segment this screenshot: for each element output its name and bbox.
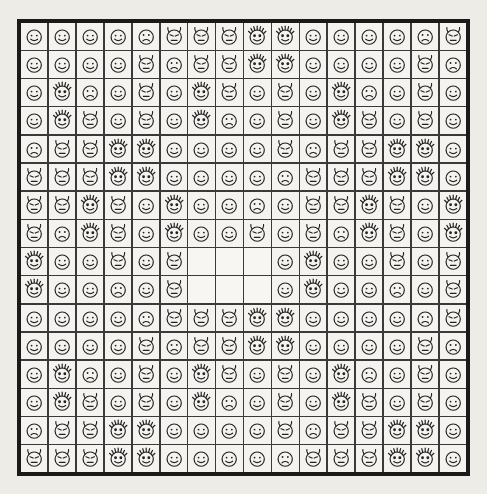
grid-cell-sun[interactable]: [49, 107, 75, 134]
grid-cell-sun[interactable]: [356, 220, 382, 247]
grid-cell-smile[interactable]: [328, 333, 354, 360]
grid-cell-devil[interactable]: [49, 164, 75, 191]
grid-cell-sun[interactable]: [384, 445, 410, 472]
grid-cell-smile[interactable]: [384, 333, 410, 360]
grid-cell-sun[interactable]: [188, 79, 214, 106]
grid-cell-devil[interactable]: [133, 361, 159, 388]
grid-cell-devil[interactable]: [328, 164, 354, 191]
grid-cell-sad[interactable]: [21, 417, 47, 444]
grid-cell-devil[interactable]: [21, 220, 47, 247]
grid-cell-sad[interactable]: [272, 445, 298, 472]
grid-cell-sad[interactable]: [440, 333, 466, 360]
grid-cell-devil[interactable]: [272, 136, 298, 163]
grid-cell-smile[interactable]: [49, 333, 75, 360]
grid-cell-devil[interactable]: [216, 305, 242, 332]
grid-cell-smile[interactable]: [161, 107, 187, 134]
grid-cell-smile[interactable]: [21, 361, 47, 388]
grid-cell-smile[interactable]: [216, 164, 242, 191]
grid-cell-sun[interactable]: [188, 361, 214, 388]
grid-cell-devil[interactable]: [272, 107, 298, 134]
grid-cell-devil[interactable]: [21, 164, 47, 191]
grid-cell-sun[interactable]: [49, 361, 75, 388]
grid-cell-smile[interactable]: [300, 389, 326, 416]
grid-cell-sun[interactable]: [244, 305, 270, 332]
grid-cell-smile[interactable]: [77, 23, 103, 50]
grid-cell-smile[interactable]: [244, 107, 270, 134]
grid-cell-sun[interactable]: [412, 445, 438, 472]
grid-cell-smile[interactable]: [161, 389, 187, 416]
grid-cell-devil[interactable]: [356, 389, 382, 416]
grid-cell-devil[interactable]: [77, 107, 103, 134]
grid-cell-smile[interactable]: [49, 276, 75, 303]
grid-cell-smile[interactable]: [105, 389, 131, 416]
grid-cell-smile[interactable]: [77, 248, 103, 275]
grid-cell-sun[interactable]: [272, 333, 298, 360]
grid-cell-smile[interactable]: [21, 389, 47, 416]
grid-cell-sun[interactable]: [188, 107, 214, 134]
grid-cell-smile[interactable]: [188, 164, 214, 191]
grid-cell-sun[interactable]: [300, 276, 326, 303]
grid-cell-sun[interactable]: [161, 220, 187, 247]
grid-cell-smile[interactable]: [384, 107, 410, 134]
grid-cell-sun[interactable]: [300, 248, 326, 275]
grid-cell-sun[interactable]: [77, 192, 103, 219]
grid-cell-sad[interactable]: [49, 220, 75, 247]
grid-cell-devil[interactable]: [328, 192, 354, 219]
grid-cell-sun[interactable]: [21, 248, 47, 275]
grid-cell-devil[interactable]: [216, 79, 242, 106]
grid-cell-devil[interactable]: [328, 445, 354, 472]
grid-cell-sad[interactable]: [105, 276, 131, 303]
grid-cell-smile[interactable]: [300, 305, 326, 332]
grid-cell-devil[interactable]: [133, 79, 159, 106]
grid-cell-smile[interactable]: [216, 192, 242, 219]
grid-cell-smile[interactable]: [244, 164, 270, 191]
grid-cell-smile[interactable]: [188, 136, 214, 163]
grid-cell-devil[interactable]: [356, 445, 382, 472]
grid-cell-smile[interactable]: [384, 79, 410, 106]
grid-cell-sad[interactable]: [272, 164, 298, 191]
grid-cell-devil[interactable]: [161, 23, 187, 50]
grid-cell-devil[interactable]: [133, 389, 159, 416]
grid-cell-smile[interactable]: [300, 51, 326, 78]
grid-cell-devil[interactable]: [272, 361, 298, 388]
grid-cell-devil[interactable]: [77, 445, 103, 472]
grid-cell-devil[interactable]: [49, 192, 75, 219]
grid-cell-smile[interactable]: [440, 361, 466, 388]
grid-cell-devil[interactable]: [133, 333, 159, 360]
grid-cell-sun[interactable]: [356, 192, 382, 219]
grid-cell-devil[interactable]: [105, 248, 131, 275]
grid-cell-smile[interactable]: [105, 333, 131, 360]
grid-cell-smile[interactable]: [272, 192, 298, 219]
grid-cell-sun[interactable]: [412, 136, 438, 163]
grid-cell-sad[interactable]: [412, 23, 438, 50]
grid-cell-smile[interactable]: [105, 51, 131, 78]
grid-cell-devil[interactable]: [440, 23, 466, 50]
grid-cell-smile[interactable]: [49, 51, 75, 78]
grid-cell-devil[interactable]: [161, 248, 187, 275]
grid-cell-smile[interactable]: [440, 136, 466, 163]
grid-cell-devil[interactable]: [105, 220, 131, 247]
grid-cell-sad[interactable]: [133, 305, 159, 332]
grid-cell-sun[interactable]: [105, 136, 131, 163]
grid-cell-smile[interactable]: [244, 79, 270, 106]
grid-cell-devil[interactable]: [328, 136, 354, 163]
grid-cell-smile[interactable]: [161, 136, 187, 163]
grid-cell-sad[interactable]: [133, 23, 159, 50]
grid-cell-sun[interactable]: [77, 220, 103, 247]
grid-cell-devil[interactable]: [272, 417, 298, 444]
grid-cell-sad[interactable]: [412, 305, 438, 332]
grid-cell-devil[interactable]: [356, 107, 382, 134]
grid-cell-smile[interactable]: [412, 248, 438, 275]
grid-cell-smile[interactable]: [21, 23, 47, 50]
grid-cell-blank[interactable]: [188, 248, 214, 275]
grid-cell-sad[interactable]: [21, 136, 47, 163]
grid-cell-sun[interactable]: [244, 51, 270, 78]
grid-cell-smile[interactable]: [133, 276, 159, 303]
grid-cell-smile[interactable]: [356, 51, 382, 78]
grid-cell-devil[interactable]: [412, 333, 438, 360]
grid-cell-smile[interactable]: [216, 417, 242, 444]
grid-cell-devil[interactable]: [21, 192, 47, 219]
grid-cell-smile[interactable]: [161, 417, 187, 444]
grid-cell-smile[interactable]: [412, 192, 438, 219]
grid-cell-smile[interactable]: [412, 276, 438, 303]
